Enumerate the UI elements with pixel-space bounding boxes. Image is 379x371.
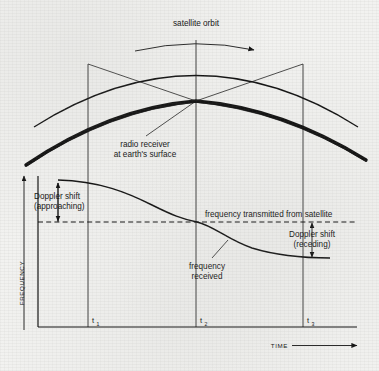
receiver-label-line2: at earth's surface — [114, 150, 177, 159]
sight-line-t3 — [196, 64, 303, 101]
doppler-approaching-label-line2: (approaching) — [34, 202, 85, 211]
receiver-label-line1: radio receiver — [120, 140, 170, 149]
doppler-receding-label-line2: (receding) — [294, 240, 331, 249]
frequency-received-curve — [58, 180, 330, 258]
frequency-received-leader — [212, 240, 228, 258]
sight-line-t1 — [88, 64, 196, 101]
frequency-received-label-line1: frequency — [189, 262, 226, 271]
y-axis-label: FREQUENCY — [18, 261, 25, 305]
doppler-receding-label-line1: Doppler shift — [289, 230, 336, 239]
doppler-approaching-label-line1: Doppler shift — [34, 192, 81, 201]
x-axis-label: TIME — [271, 342, 288, 349]
transmitted-frequency-label: frequency transmitted from satellite — [205, 210, 333, 219]
tick-label-t1-base: t — [92, 316, 95, 325]
tick-label-t2-base: t — [200, 316, 203, 325]
tick-label-t2-subscript: 2 — [205, 321, 208, 327]
tick-label-t3-subscript: 3 — [312, 321, 315, 327]
tick-label-t2: t 2 — [200, 316, 208, 327]
frequency-received-label-line2: received — [192, 272, 223, 281]
tick-label-t1: t 1 — [92, 316, 100, 327]
doppler-shift-figure: satellite orbit radio receiver at earth'… — [0, 0, 379, 371]
tick-label-t3-base: t — [307, 316, 310, 325]
satellite-orbit-label: satellite orbit — [173, 19, 220, 28]
tick-label-t3: t 3 — [307, 316, 315, 327]
tick-label-t1-subscript: 1 — [97, 321, 100, 327]
orbit-direction-arrow — [135, 44, 254, 51]
figure-canvas: satellite orbit radio receiver at earth'… — [0, 0, 379, 371]
